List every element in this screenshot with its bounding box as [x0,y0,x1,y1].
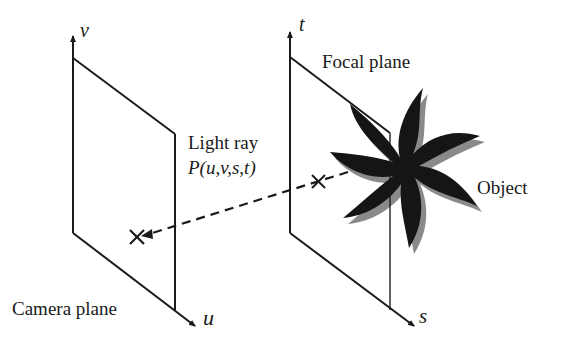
camera-intersection-x-icon [130,230,144,244]
camera-plane-top-edge [73,58,175,134]
object-label: Object [477,178,528,197]
light-ray-label: Light ray [188,133,258,152]
camera-plane [73,36,195,326]
v-axis-label: v [80,20,89,40]
t-axis-label: t [299,14,305,34]
camera-plane-label: Camera plane [12,299,117,318]
u-axis-label: u [203,307,214,329]
focal-plane-label: Focal plane [322,52,410,71]
focal-plane-bottom-edge [290,233,414,326]
light-ray-formula: P(u,v,s,t) [188,158,256,177]
light-field-diagram [0,0,570,347]
object-icon [330,88,485,254]
s-axis-label: s [419,306,427,327]
